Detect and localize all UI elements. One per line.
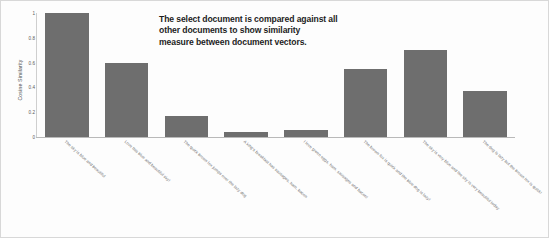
annotation-text: The select document is compared against … xyxy=(159,14,429,48)
y-axis-title: Cosine Similarity xyxy=(14,0,26,35)
bar[interactable] xyxy=(165,116,209,137)
bar-chart-figure: Cosine Similarity 00.20.40.60.81 The sel… xyxy=(0,0,549,238)
y-axis-title-text: Cosine Similarity xyxy=(14,35,26,125)
bar-slot xyxy=(37,13,97,137)
bar[interactable] xyxy=(344,69,388,137)
annotation-line: other documents to show similarity xyxy=(159,25,429,36)
y-axis-tick-label: 0.8 xyxy=(29,35,35,40)
bar[interactable] xyxy=(463,91,507,137)
y-axis-tick-label: 0.6 xyxy=(29,60,35,65)
y-axis-tick-label: 0.2 xyxy=(29,110,35,115)
x-axis-tick-label: Love this blue and beautiful sky! xyxy=(123,139,171,183)
annotation-line: The select document is compared against … xyxy=(159,14,429,25)
bar[interactable] xyxy=(404,50,448,137)
bar-slot xyxy=(455,13,515,137)
y-axis-tick-label: 0.4 xyxy=(29,85,35,90)
y-axis-tick-label: 1 xyxy=(32,11,35,16)
x-axis-tick-label: The brown fox is quick and the blue dog … xyxy=(362,139,431,202)
bar[interactable] xyxy=(105,63,149,137)
y-axis-tick-label: 0 xyxy=(32,135,35,140)
x-axis-tick-label: A king's breakfast has sausages, ham, ba… xyxy=(243,139,309,199)
x-axis-tick-label: The quick brown fox jumps over the lazy … xyxy=(183,139,248,198)
bar-slot xyxy=(97,13,157,137)
annotation-line: measure between document vectors. xyxy=(159,37,429,48)
x-axis-tick-label: I love green eggs, ham, sausages and bac… xyxy=(303,139,370,200)
x-axis-tick-label: The sky is blue and beautiful xyxy=(64,139,107,178)
x-axis-tick-label: The dog is lazy but the brown fox is qui… xyxy=(482,139,543,195)
bar[interactable] xyxy=(284,130,328,137)
x-axis-line xyxy=(36,137,515,138)
x-axis-tick-labels: The sky is blue and beautifulLove this b… xyxy=(37,139,515,235)
bar[interactable] xyxy=(45,13,89,137)
bar[interactable] xyxy=(224,132,268,137)
